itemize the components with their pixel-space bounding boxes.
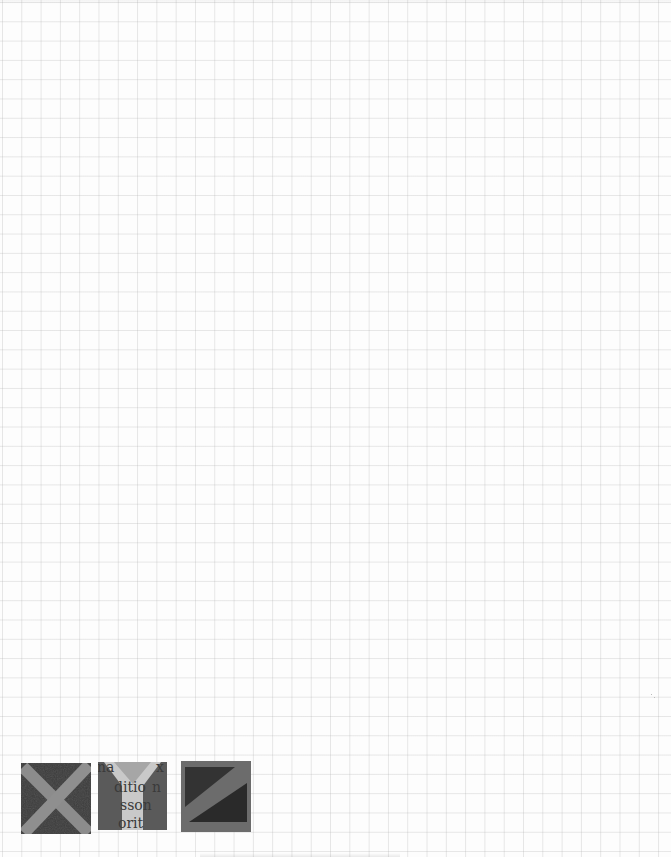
collage-letter-x [21,763,91,834]
text-fragment: x [156,762,164,775]
graph-paper [0,0,671,857]
collage-letter-z [181,761,251,832]
text-fragment: ditio [114,779,146,795]
collage-letter-y: na x ditio n sson orit [98,762,167,830]
text-fragment: na [98,762,114,775]
scan-edge-shadow [0,0,671,4]
letter-x-icon [21,763,91,834]
text-fragment: n [152,779,161,795]
letter-y-icon: na x ditio n sson orit [98,762,167,830]
text-fragment: sson [120,797,152,813]
scan-edge-shadow [200,853,400,857]
scan-speck [654,697,655,698]
scan-speck [651,694,652,695]
letter-z-icon [181,761,251,832]
text-fragment: orit [118,815,144,830]
